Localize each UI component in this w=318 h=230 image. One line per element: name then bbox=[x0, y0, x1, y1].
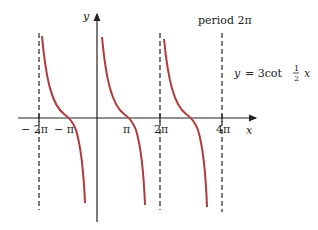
branch-1 bbox=[42, 36, 85, 203]
equation-label: y = 3cot 1 2 x bbox=[233, 64, 311, 83]
tick-label-pi: π bbox=[123, 123, 130, 136]
period-label: period 2π bbox=[198, 14, 252, 27]
tick-label-4pi: 4π bbox=[216, 123, 230, 136]
equation-y: y bbox=[233, 67, 241, 80]
branch-3 bbox=[164, 39, 207, 207]
equation-denominator: 2 bbox=[294, 74, 299, 83]
equation-x: x bbox=[304, 67, 311, 80]
equation-numerator: 1 bbox=[294, 64, 299, 73]
tick-label-2pi: 2π bbox=[154, 123, 168, 136]
tick-label-minus-2pi: − 2π bbox=[21, 123, 48, 136]
tick-label-minus-pi: − π bbox=[54, 123, 74, 136]
x-axis-label: x bbox=[246, 124, 253, 137]
cotangent-chart: y x − 2π − π π 2π 4π period 2π y = 3cot … bbox=[0, 0, 318, 230]
equation-middle: = 3cot bbox=[245, 67, 282, 80]
curve-branches bbox=[42, 36, 207, 207]
branch-2 bbox=[102, 37, 145, 205]
y-axis-label: y bbox=[82, 10, 90, 23]
